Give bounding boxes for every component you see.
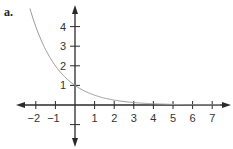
- x-tick-label: −1: [47, 112, 60, 124]
- y-axis-up-arrow-icon: [72, 5, 78, 14]
- x-tick-label: 5: [170, 112, 176, 124]
- y-tick-label: 1: [60, 79, 66, 91]
- x-axis-right-arrow-icon: [222, 102, 231, 108]
- y-axis-down-arrow-icon: [72, 138, 78, 147]
- y-tick-label: 4: [60, 21, 66, 33]
- y-tick-label: 3: [60, 40, 66, 52]
- x-tick-label: 7: [209, 112, 215, 124]
- x-axis-left-arrow-icon: [16, 102, 25, 108]
- x-tick-label: 1: [92, 112, 98, 124]
- function-graph: −2−112345671234: [0, 0, 233, 149]
- exponential-curve: [30, 8, 220, 104]
- x-tick-label: −2: [28, 112, 41, 124]
- x-tick-label: 6: [190, 112, 196, 124]
- x-tick-label: 2: [111, 112, 117, 124]
- x-tick-label: 4: [150, 112, 156, 124]
- y-tick-label: 2: [60, 60, 66, 72]
- x-tick-label: 3: [131, 112, 137, 124]
